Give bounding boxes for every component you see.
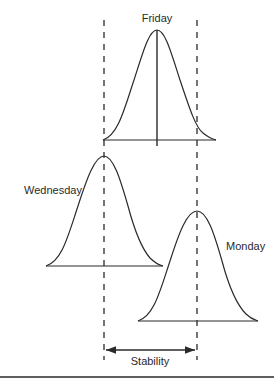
friday-distribution: Friday xyxy=(103,12,216,146)
stability-diagram: Friday Wednesday Monday Stability xyxy=(0,0,274,382)
monday-label: Monday xyxy=(226,240,266,252)
friday-curve xyxy=(103,30,216,140)
wednesday-label: Wednesday xyxy=(24,184,82,196)
stability-label: Stability xyxy=(131,355,170,367)
wednesday-distribution: Wednesday xyxy=(24,156,163,266)
stability-span: Stability xyxy=(106,350,195,367)
friday-label: Friday xyxy=(142,12,173,24)
